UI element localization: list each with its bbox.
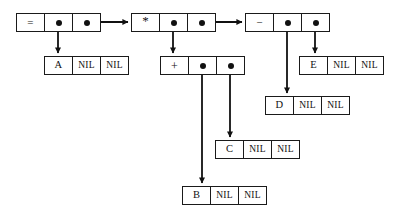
node-equals-left-pointer-cell[interactable] [44, 14, 72, 31]
node-c-right-nil-cell: NIL [271, 141, 299, 158]
node-minus-left-pointer-cell[interactable] [273, 14, 301, 31]
pointer-dot-icon [285, 20, 291, 26]
node-e-right-nil-cell: NIL [355, 57, 383, 74]
node-plus-operator-cell: + [161, 57, 188, 74]
node-equals[interactable]: = [16, 13, 101, 32]
node-d-left-nil-cell: NIL [293, 97, 321, 114]
node-minus-operator-cell: − [246, 14, 273, 31]
node-e-left-nil-cell: NIL [327, 57, 355, 74]
node-b[interactable]: B NIL NIL [182, 186, 267, 205]
pointer-dot-icon [171, 20, 177, 26]
node-d-right-nil-cell: NIL [321, 97, 349, 114]
node-times[interactable]: * [131, 13, 216, 32]
node-e[interactable]: E NIL NIL [299, 56, 384, 75]
pointer-dot-icon [56, 20, 62, 26]
pointer-dot-icon [199, 20, 205, 26]
node-times-left-pointer-cell[interactable] [159, 14, 187, 31]
node-times-operator-cell: * [132, 14, 159, 31]
node-a[interactable]: A NIL NIL [44, 56, 129, 75]
pointer-dot-icon [228, 63, 234, 69]
node-b-left-nil-cell: NIL [210, 187, 238, 204]
node-c-value-cell: C [216, 141, 243, 158]
node-e-value-cell: E [300, 57, 327, 74]
node-equals-right-pointer-cell[interactable] [72, 14, 100, 31]
node-d[interactable]: D NIL NIL [265, 96, 350, 115]
node-plus-right-pointer-cell[interactable] [216, 57, 244, 74]
expression-tree-diagram: = * − A NIL NIL + [0, 0, 402, 218]
node-minus-right-pointer-cell[interactable] [301, 14, 329, 31]
pointer-dot-icon [313, 20, 319, 26]
node-c-left-nil-cell: NIL [243, 141, 271, 158]
node-b-right-nil-cell: NIL [238, 187, 266, 204]
node-a-left-nil-cell: NIL [72, 57, 100, 74]
pointer-dot-icon [200, 63, 206, 69]
node-b-value-cell: B [183, 187, 210, 204]
node-a-value-cell: A [45, 57, 72, 74]
node-a-right-nil-cell: NIL [100, 57, 128, 74]
node-c[interactable]: C NIL NIL [215, 140, 300, 159]
node-times-right-pointer-cell[interactable] [187, 14, 215, 31]
node-plus[interactable]: + [160, 56, 245, 75]
node-equals-operator-cell: = [17, 14, 44, 31]
node-plus-left-pointer-cell[interactable] [188, 57, 216, 74]
node-d-value-cell: D [266, 97, 293, 114]
node-minus[interactable]: − [245, 13, 330, 32]
pointer-dot-icon [84, 20, 90, 26]
